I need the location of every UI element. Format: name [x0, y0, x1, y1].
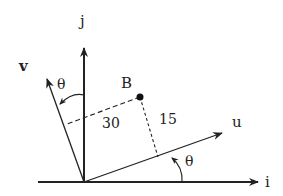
distance-to-u-label: 15	[159, 111, 177, 127]
point-b-marker	[137, 94, 144, 101]
dashed-line-to-u	[140, 97, 158, 157]
distance-to-v-label: 30	[102, 115, 120, 131]
angle-v-label: θ	[57, 76, 65, 92]
u-vector-label: u	[232, 113, 242, 131]
j-axis-label: j	[78, 12, 85, 30]
point-b-label: B	[121, 74, 132, 92]
angle-arc-v	[60, 94, 84, 104]
vector-diagram: j i u v B 30 15 θ θ	[0, 0, 283, 196]
angle-u-label: θ	[185, 153, 193, 169]
v-vector-label: v	[18, 57, 29, 75]
angle-arc-u	[172, 158, 182, 182]
i-axis-label: i	[265, 173, 270, 191]
